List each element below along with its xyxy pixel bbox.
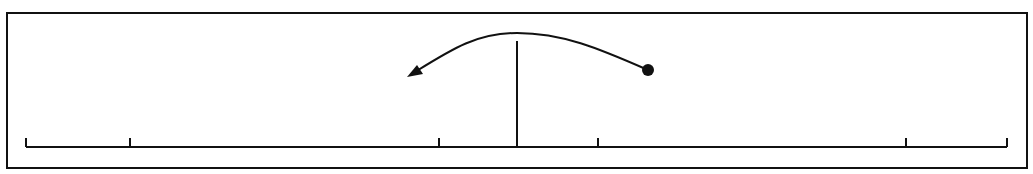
number-line-diagram xyxy=(0,0,1033,174)
arrowhead-icon xyxy=(407,65,423,77)
start-dot-icon xyxy=(642,64,654,76)
jump-arc xyxy=(415,33,648,72)
